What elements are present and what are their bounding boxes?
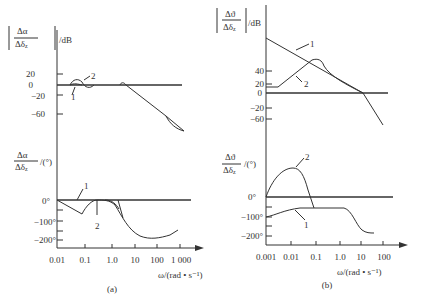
svg-text:40: 40 [255,66,265,76]
svg-text:/dB: /dB [59,35,72,45]
svg-text:10: 10 [357,252,367,262]
svg-text:1: 1 [71,92,76,102]
svg-text:−60: −60 [250,114,265,124]
svg-text:/dB: /dB [248,18,261,28]
panel-b-mag-curve-1 [266,38,383,125]
panel-a-mag-rolloff-1 [126,85,184,131]
svg-text:−200°: −200° [34,235,57,245]
svg-text:1: 1 [310,39,315,49]
svg-text:20: 20 [26,69,36,79]
svg-text:2: 2 [91,71,96,81]
svg-text:0°: 0° [42,196,51,206]
svg-text:1 000: 1 000 [171,255,192,265]
svg-text:2: 2 [305,152,310,162]
panel-b-text: Δϑ Δδz /dB 40 20 0 −20 −60 1 2 Δϑ Δδz /(… [223,9,391,290]
panel-b-x-label: ω/(rad • s⁻¹) [337,267,382,277]
svg-text:100: 100 [150,255,164,265]
svg-text:100: 100 [377,252,391,262]
svg-text:0: 0 [258,88,263,98]
svg-text:/(°): /(°) [244,159,256,169]
svg-text:Δϑ: Δϑ [225,152,236,162]
panel-a-text: Δα Δδz /dB 20 0 −20 −60 1 2 Δα Δδz /(°) … [15,26,203,294]
svg-text:Δδz: Δδz [15,162,28,172]
svg-text:1: 1 [84,181,89,191]
panel-b-phase-curve-2 [266,168,314,208]
svg-text:−20: −20 [250,103,265,113]
panel-a-caption: (a) [107,284,117,294]
panel-b-caption: (b) [322,280,333,290]
svg-text:Δδz: Δδz [223,165,236,175]
svg-text:−20: −20 [31,91,46,101]
svg-text:2: 2 [95,221,100,231]
svg-text:/(°): /(°) [40,157,52,167]
panel-b-phase-curve-1 [266,208,374,233]
svg-text:0.01: 0.01 [49,255,65,265]
svg-text:Δα: Δα [17,150,28,160]
bode-plot-figure: Δα Δδz /dB 20 0 −20 −60 1 2 Δα Δδz /(°) … [0,0,436,300]
svg-text:1.0: 1.0 [106,255,118,265]
svg-text:0.1: 0.1 [310,252,321,262]
svg-text:Δϑ: Δϑ [225,9,236,19]
svg-text:0°: 0° [248,192,257,202]
svg-text:0.001: 0.001 [256,252,276,262]
svg-text:−60: −60 [31,109,46,119]
svg-text:0: 0 [29,80,34,90]
panel-b-mag-curve-2 [266,59,363,93]
svg-text:−200°: −200° [241,231,264,241]
svg-text:1.0: 1.0 [334,252,346,262]
svg-text:0.1: 0.1 [79,255,90,265]
svg-text:Δδz: Δδz [15,39,28,49]
svg-text:Δδz: Δδz [223,22,236,32]
svg-text:10: 10 [131,255,141,265]
svg-text:1: 1 [304,220,309,230]
panel-a-phase-curve [57,200,178,238]
svg-text:2: 2 [304,79,309,89]
svg-text:−100°: −100° [34,217,57,227]
svg-text:−100°: −100° [241,212,264,222]
svg-text:0.01: 0.01 [283,252,299,262]
panel-a-x-label: ω/(rad • s⁻¹) [158,270,203,280]
svg-text:Δα: Δα [17,26,28,36]
